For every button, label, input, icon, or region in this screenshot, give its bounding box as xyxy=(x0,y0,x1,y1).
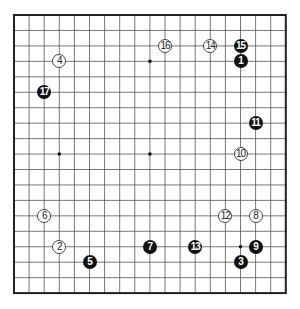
move-number: 10 xyxy=(236,149,245,159)
move-number: 4 xyxy=(57,56,62,66)
move-number: 16 xyxy=(160,41,169,51)
move-number: 2 xyxy=(57,242,62,252)
black-stone: 9 xyxy=(249,240,263,254)
white-stone: 16 xyxy=(158,39,172,53)
black-stone: 15 xyxy=(234,39,248,53)
star-point xyxy=(148,152,152,156)
star-point xyxy=(58,152,62,156)
go-board xyxy=(0,0,300,309)
move-number: 17 xyxy=(40,87,49,97)
star-point xyxy=(239,245,243,249)
black-stone: 1 xyxy=(234,54,248,68)
move-number: 8 xyxy=(253,211,258,221)
move-number: 11 xyxy=(251,118,260,128)
white-stone: 6 xyxy=(37,209,51,223)
move-number: 1 xyxy=(238,56,243,66)
move-number: 14 xyxy=(206,41,215,51)
move-number: 6 xyxy=(42,211,47,221)
move-number: 3 xyxy=(238,257,243,267)
black-stone: 7 xyxy=(143,240,157,254)
move-number: 5 xyxy=(87,257,92,267)
black-stone: 5 xyxy=(83,255,97,269)
black-stone: 13 xyxy=(188,240,202,254)
move-number: 9 xyxy=(253,242,258,252)
move-number: 13 xyxy=(191,242,200,252)
move-number: 15 xyxy=(236,41,245,51)
black-stone: 3 xyxy=(234,255,248,269)
star-point xyxy=(148,60,152,64)
move-number: 12 xyxy=(221,211,230,221)
white-stone: 8 xyxy=(249,209,263,223)
white-stone: 10 xyxy=(234,147,248,161)
white-stone: 2 xyxy=(52,240,66,254)
black-stone: 11 xyxy=(249,116,263,130)
move-number: 7 xyxy=(148,242,153,252)
